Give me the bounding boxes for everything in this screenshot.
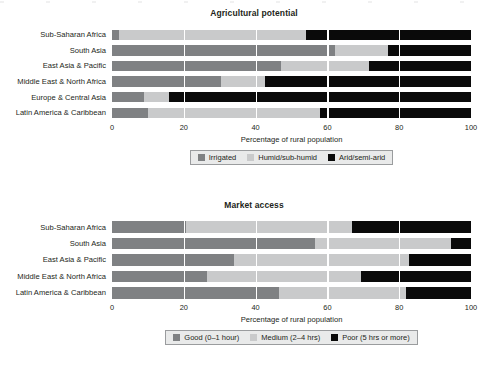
stacked-bar: [112, 108, 471, 119]
category-label: South Asia: [0, 46, 112, 55]
top-dashed-rule: [0, 1, 484, 3]
bar-segment: [335, 45, 389, 56]
legend-swatch-icon: [198, 154, 205, 161]
bar-segment: [112, 92, 144, 103]
x-tick-label: 0: [110, 303, 114, 312]
legend-item[interactable]: Humid/sub-humid: [247, 153, 317, 162]
bar-row: East Asia & Pacific: [0, 58, 484, 74]
bar-row: South Asia: [0, 235, 484, 251]
plot-area: Sub-Saharan AfricaSouth AsiaEast Asia & …: [0, 219, 484, 301]
category-label: East Asia & Pacific: [0, 61, 112, 70]
bar-segment: [169, 92, 471, 103]
stacked-bar: [112, 30, 471, 41]
bar-segment: [388, 45, 471, 56]
stacked-bar: [112, 92, 471, 103]
bar-segment: [112, 271, 207, 283]
legend-item[interactable]: Good (0–1 hour): [173, 333, 239, 342]
x-tick-label: 100: [465, 123, 477, 132]
bar-segment: [234, 254, 409, 266]
x-tick-label: 60: [323, 303, 331, 312]
x-tick-label: 0: [110, 123, 114, 132]
x-tick-label: 80: [395, 303, 403, 312]
legend-container: Good (0–1 hour)Medium (2–4 hrs)Poor (5 h…: [112, 330, 471, 345]
bar-segment: [112, 108, 148, 119]
bar-segment: [144, 92, 169, 103]
bar-rows: Sub-Saharan AfricaSouth AsiaEast Asia & …: [0, 27, 484, 121]
bar-segment: [320, 108, 471, 119]
legend-item[interactable]: Medium (2–4 hrs): [250, 333, 320, 342]
category-label: Latin America & Caribbean: [0, 288, 112, 297]
legend: IrrigatedHumid/sub-humidArid/semi-arid: [190, 150, 394, 165]
x-tick-label: 80: [395, 123, 403, 132]
category-label: East Asia & Pacific: [0, 255, 112, 264]
chart-title: Market access: [0, 200, 484, 210]
legend-label: Arid/semi-arid: [339, 153, 385, 162]
legend-item[interactable]: Irrigated: [198, 153, 237, 162]
x-axis-ticks: 020406080100: [112, 121, 471, 135]
legend-swatch-icon: [173, 334, 180, 341]
bar-segment: [112, 254, 234, 266]
x-tick-label: 60: [323, 123, 331, 132]
bar-segment: [279, 287, 406, 299]
bar-segment: [112, 30, 119, 41]
bar-row: Sub-Saharan Africa: [0, 219, 484, 235]
legend-item[interactable]: Arid/semi-arid: [328, 153, 385, 162]
bar-row: Sub-Saharan Africa: [0, 27, 484, 43]
bar-segment: [315, 238, 451, 250]
legend: Good (0–1 hour)Medium (2–4 hrs)Poor (5 h…: [165, 330, 417, 345]
bar-segment: [148, 108, 320, 119]
category-label: Sub-Saharan Africa: [0, 30, 112, 39]
x-tick-label: 20: [180, 123, 188, 132]
bar-segment: [186, 221, 352, 233]
category-label: South Asia: [0, 239, 112, 248]
legend-item[interactable]: Poor (5 hrs or more): [331, 333, 410, 342]
bar-row: Latin America & Caribbean: [0, 105, 484, 121]
bar-segment: [112, 45, 335, 56]
x-axis-title: Percentage of rural population: [112, 315, 471, 324]
bar-row: South Asia: [0, 43, 484, 59]
bar-segment: [207, 271, 361, 283]
category-label: Middle East & North Africa: [0, 77, 112, 86]
bar-segment: [306, 30, 471, 41]
bar-segment: [281, 61, 369, 72]
chart-panel-agricultural-potential: Agricultural potential Sub-Saharan Afric…: [0, 8, 484, 165]
bar-segment: [221, 76, 264, 87]
stacked-bar: [112, 287, 471, 299]
chart-panel-market-access: Market access Sub-Saharan AfricaSouth As…: [0, 200, 484, 345]
bar-row: Europe & Central Asia: [0, 89, 484, 105]
category-label: Latin America & Caribbean: [0, 108, 112, 117]
bar-segment: [112, 238, 315, 250]
bar-row: Middle East & North Africa: [0, 74, 484, 90]
x-axis-title: Percentage of rural population: [112, 135, 471, 144]
legend-label: Good (0–1 hour): [184, 333, 239, 342]
category-label: Europe & Central Asia: [0, 93, 112, 102]
x-axis-ticks: 020406080100: [112, 301, 471, 315]
bar-rows: Sub-Saharan AfricaSouth AsiaEast Asia & …: [0, 219, 484, 301]
bar-segment: [112, 76, 221, 87]
bar-segment: [451, 238, 471, 250]
stacked-bar: [112, 76, 471, 87]
stacked-bar: [112, 238, 471, 250]
legend-label: Humid/sub-humid: [258, 153, 317, 162]
stacked-bar: [112, 45, 471, 56]
bar-segment: [369, 61, 471, 72]
category-label: Sub-Saharan Africa: [0, 223, 112, 232]
legend-swatch-icon: [250, 334, 257, 341]
stacked-bar: [112, 271, 471, 283]
stacked-bar: [112, 61, 471, 72]
bar-row: Middle East & North Africa: [0, 268, 484, 284]
category-label: Middle East & North Africa: [0, 272, 112, 281]
bar-segment: [352, 221, 471, 233]
bar-segment: [112, 61, 281, 72]
legend-swatch-icon: [328, 154, 335, 161]
bar-segment: [406, 287, 471, 299]
x-tick-label: 100: [465, 303, 477, 312]
stacked-bar: [112, 221, 471, 233]
stacked-bar: [112, 254, 471, 266]
bar-segment: [112, 287, 279, 299]
chart-title: Agricultural potential: [0, 8, 484, 18]
bar-segment: [119, 30, 306, 41]
legend-swatch-icon: [331, 334, 338, 341]
bar-row: East Asia & Pacific: [0, 252, 484, 268]
legend-label: Irrigated: [209, 153, 237, 162]
